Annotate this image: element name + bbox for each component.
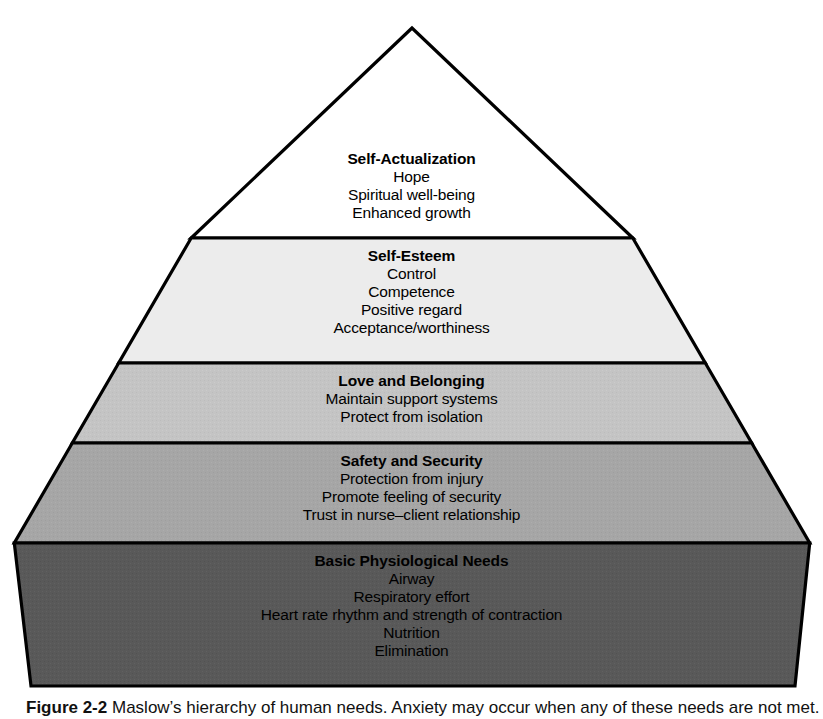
caption-body: Maslow’s hierarchy of human needs. Anxie… (112, 698, 819, 717)
tier-shape-love-and-belonging (72, 363, 751, 443)
caption-label: Figure 2-2 (26, 698, 107, 717)
tier-shape-self-actualization (191, 28, 633, 238)
tier-shape-self-esteem (119, 238, 706, 363)
figure-caption: Figure 2-2 Maslow’s hierarchy of human n… (0, 697, 823, 719)
tier-shape-safety-and-security (14, 443, 809, 543)
tier-shape-basic-physiological-needs (14, 543, 809, 686)
